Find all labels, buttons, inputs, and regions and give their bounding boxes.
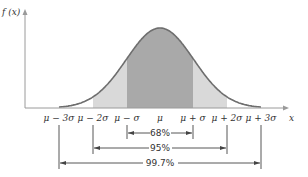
x-tick-labels: μ − 3σ μ − 2σ μ − σ μ μ + σ μ + 2σ μ + 3… bbox=[44, 113, 278, 123]
x-axis-label: x bbox=[289, 113, 294, 123]
y-axis-label: f (x) bbox=[1, 7, 21, 17]
interval-95-label: 95% bbox=[150, 143, 170, 153]
tick-label-mu-minus-2sigma: μ − 2σ bbox=[78, 113, 110, 123]
tick-label-mu: μ bbox=[157, 113, 163, 123]
arrow-right-icon bbox=[186, 131, 192, 135]
interval-99-7-label: 99.7% bbox=[146, 158, 175, 168]
arrow-left-icon bbox=[94, 146, 100, 150]
tick-label-mu-plus-sigma: μ + σ bbox=[180, 113, 206, 123]
arrow-right-icon bbox=[254, 161, 260, 165]
tick-label-mu-plus-3sigma: μ + 3σ bbox=[246, 113, 278, 123]
arrow-left-icon bbox=[60, 161, 66, 165]
y-axis-arrow-icon bbox=[23, 9, 28, 15]
tick-label-mu-plus-2sigma: μ + 2σ bbox=[212, 113, 244, 123]
interval-68-label: 68% bbox=[150, 128, 170, 138]
arrow-left-icon bbox=[128, 131, 134, 135]
tick-label-mu-minus-sigma: μ − σ bbox=[114, 113, 140, 123]
one-sigma-band bbox=[127, 28, 193, 108]
x-axis-arrow-icon bbox=[283, 106, 289, 111]
arrow-right-icon bbox=[220, 146, 226, 150]
normal-distribution-diagram: f (x) x μ − 3σ μ − 2σ μ − σ μ μ + σ μ + … bbox=[0, 0, 308, 177]
tick-label-mu-minus-3sigma: μ − 3σ bbox=[44, 113, 76, 123]
